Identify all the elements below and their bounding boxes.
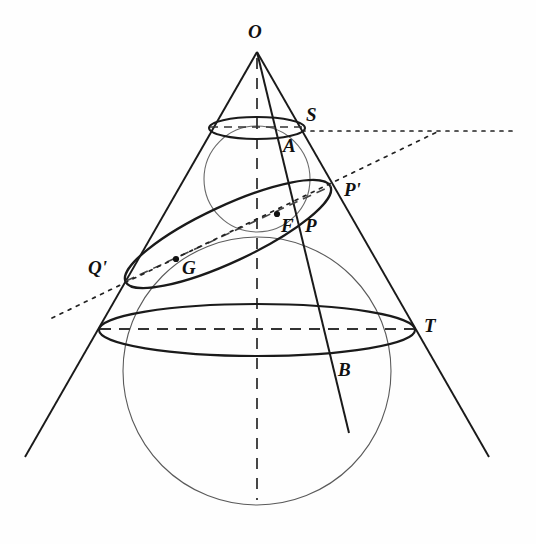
label-point-p: P	[305, 216, 317, 235]
geometry-svg	[0, 0, 536, 544]
dot-point-g	[173, 256, 179, 262]
label-point-t: T	[424, 316, 436, 335]
label-focus-f: F	[281, 216, 294, 235]
label-apex-o: O	[248, 22, 262, 41]
directrix-slanted-dotted	[52, 132, 437, 318]
label-point-a: A	[283, 136, 296, 155]
label-point-g: G	[182, 258, 196, 277]
figure-canvas: O S A P' F P Q' G T B	[0, 0, 536, 544]
label-point-p-prime: P'	[344, 180, 361, 199]
label-point-q-prime: Q'	[88, 258, 107, 277]
label-point-s: S	[306, 105, 317, 124]
label-point-b: B	[338, 360, 351, 379]
dot-focus-f	[274, 211, 280, 217]
cone-right-edge	[257, 52, 489, 457]
